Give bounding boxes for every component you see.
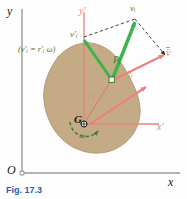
figure-container: y x O y′ x′ G Pᵢ vᵢ v′ᵢ v̄ v̄ (v′ᵢ = r′ᵢ… [0, 0, 187, 199]
v-bar-tip-overline-text: v̄ [166, 48, 170, 58]
point-label-G: G [74, 114, 82, 125]
origin-label-O: O [7, 164, 16, 176]
axis-label-x-prime: x′ [157, 122, 164, 132]
point-marker-Pi [109, 77, 114, 82]
vector-label-v-i: vᵢ [130, 4, 135, 13]
figure-caption: Fig. 17.3 [6, 186, 42, 195]
axis-label-y-prime: y′ [79, 6, 86, 16]
point-label-Pi: Pᵢ [113, 55, 121, 65]
vector-label-v-bar-tip: v̄ [166, 48, 170, 58]
v-bar-G-overline-text: v̄ [128, 72, 132, 82]
origin-marker-O [20, 171, 24, 175]
annotation-angular-velocity: ω [79, 131, 85, 140]
annotation-position-vector: r′ᵢ [88, 92, 95, 101]
annotation-relative-speed: (v′ᵢ = r′ᵢ ω) [18, 45, 55, 54]
vector-label-v-bar-G: v̄ [128, 72, 132, 82]
axis-label-x: x [168, 176, 173, 188]
axis-label-y: y [7, 5, 12, 17]
vector-label-v-prime-i: v′ᵢ [70, 30, 77, 39]
